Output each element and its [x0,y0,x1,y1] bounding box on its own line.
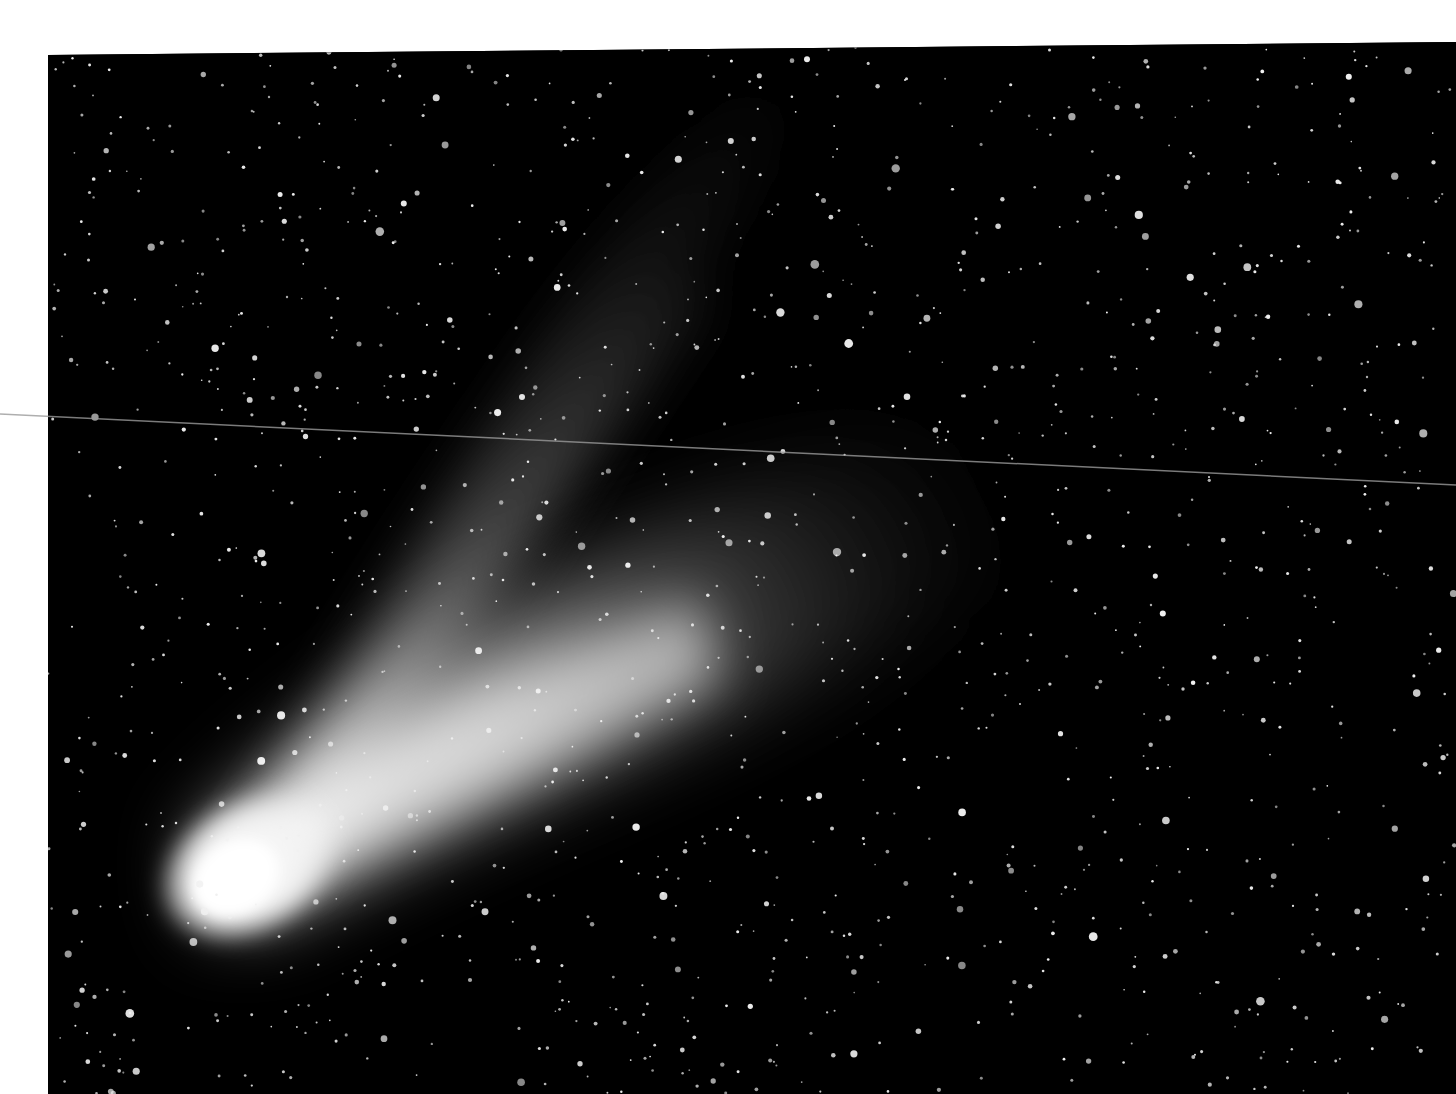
comet-scene [48,0,1456,1094]
comet-photograph [48,0,1456,1094]
